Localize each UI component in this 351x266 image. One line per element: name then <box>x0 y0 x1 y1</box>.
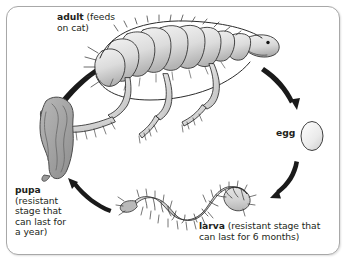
label-adult: adult (feeds on cat) <box>57 12 143 33</box>
pupa-icon <box>40 97 73 181</box>
arrow-egg-to-larva <box>270 161 299 199</box>
flea-life-cycle-diagram: adult (feeds on cat) egg larva (resistan… <box>0 0 351 266</box>
label-larva-name: larva <box>199 220 225 231</box>
label-pupa-name: pupa <box>15 184 41 195</box>
arrow-adult-to-egg <box>261 67 300 110</box>
label-egg: egg <box>276 128 306 139</box>
label-egg-name: egg <box>276 127 295 138</box>
label-adult-name: adult <box>57 11 84 22</box>
label-pupa: pupa (resistant stage that can last for … <box>15 185 81 238</box>
adult-flea-icon <box>40 15 279 143</box>
label-larva: larva (resistant stage that can last for… <box>199 221 339 242</box>
label-pupa-detail: (resistant stage that can last for a yea… <box>15 195 66 238</box>
